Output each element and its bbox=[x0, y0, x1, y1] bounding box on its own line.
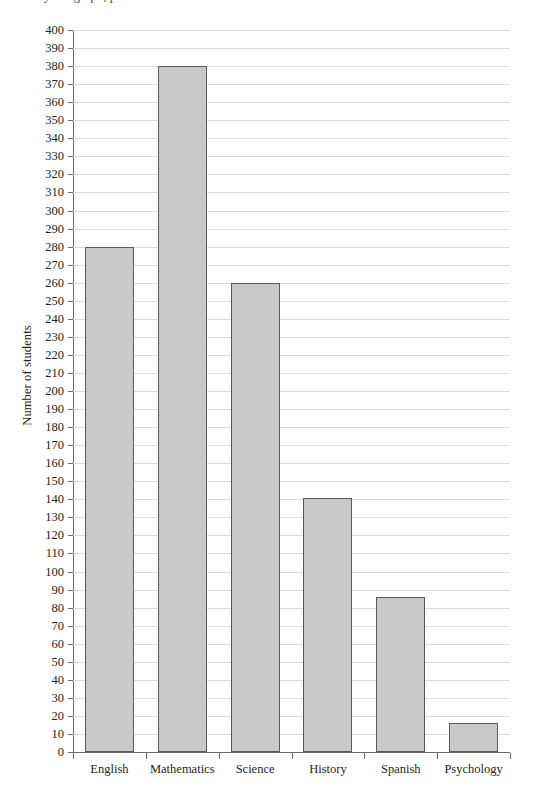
y-axis-tick-label: 390 bbox=[24, 42, 64, 54]
y-axis-tick-label: 380 bbox=[24, 60, 64, 72]
bar-chart-figure: Number of students 010203040506070809010… bbox=[0, 0, 537, 806]
y-axis-tick-label: 180 bbox=[24, 421, 64, 433]
y-axis-tick-label: 320 bbox=[24, 168, 64, 180]
y-axis-tick-label: 120 bbox=[24, 529, 64, 541]
y-axis-tick-label: 60 bbox=[24, 638, 64, 650]
y-axis-tick-label: 130 bbox=[24, 511, 64, 523]
y-axis-tick-label: 70 bbox=[24, 620, 64, 632]
y-axis-tick-label: 100 bbox=[24, 566, 64, 578]
y-axis-tick-label: 260 bbox=[24, 277, 64, 289]
bar-english bbox=[85, 247, 134, 752]
bar-science bbox=[231, 283, 280, 752]
y-axis-tick-label: 310 bbox=[24, 186, 64, 198]
x-axis-tick-mark bbox=[292, 753, 293, 759]
bars-group bbox=[73, 30, 510, 752]
y-axis-tick-label: 190 bbox=[24, 403, 64, 415]
y-axis-tick-label: 90 bbox=[24, 584, 64, 596]
y-axis-tick-label: 50 bbox=[24, 656, 64, 668]
y-axis-tick-label: 80 bbox=[24, 602, 64, 614]
y-axis-tick-label: 280 bbox=[24, 241, 64, 253]
y-axis-tick-label: 220 bbox=[24, 349, 64, 361]
x-axis-tick-mark-origin bbox=[73, 753, 74, 759]
y-axis-tick-label: 400 bbox=[24, 24, 64, 36]
y-axis-tick-label: 10 bbox=[24, 728, 64, 740]
x-axis-tick-mark bbox=[146, 753, 147, 759]
bar-history bbox=[303, 498, 352, 753]
y-axis-tick-label: 160 bbox=[24, 457, 64, 469]
y-axis-tick-label: 150 bbox=[24, 475, 64, 487]
y-axis-tick-label: 200 bbox=[24, 385, 64, 397]
y-axis-tick-label: 290 bbox=[24, 223, 64, 235]
x-axis-tick-mark bbox=[437, 753, 438, 759]
y-axis-tick-label: 330 bbox=[24, 150, 64, 162]
y-axis-tick-label: 170 bbox=[24, 439, 64, 451]
x-axis-tick-mark bbox=[219, 753, 220, 759]
y-axis-tick-label: 40 bbox=[24, 674, 64, 686]
y-axis-tick-label: 250 bbox=[24, 295, 64, 307]
y-axis-tick-label: 360 bbox=[24, 96, 64, 108]
y-axis-tick-label: 370 bbox=[24, 78, 64, 90]
y-axis-tick-label: 30 bbox=[24, 692, 64, 704]
x-axis-tick-mark bbox=[510, 753, 511, 759]
y-axis-tick-label: 0 bbox=[24, 746, 64, 758]
y-axis-tick-label: 300 bbox=[24, 205, 64, 217]
x-axis-tick-mark bbox=[364, 753, 365, 759]
y-axis-tick-label: 340 bbox=[24, 132, 64, 144]
y-axis-tick-label: 20 bbox=[24, 710, 64, 722]
plot-area bbox=[73, 30, 510, 752]
y-axis-tick-label: 140 bbox=[24, 493, 64, 505]
y-axis-tick-label: 210 bbox=[24, 367, 64, 379]
y-axis-tick-label: 110 bbox=[24, 547, 64, 559]
x-axis-label-psychology: Psychology bbox=[414, 761, 534, 777]
bar-psychology bbox=[449, 723, 498, 752]
y-axis-tick-label: 230 bbox=[24, 331, 64, 343]
bar-mathematics bbox=[158, 66, 207, 752]
bar-spanish bbox=[376, 597, 425, 752]
y-axis-tick-label: 350 bbox=[24, 114, 64, 126]
y-axis-tick-label: 270 bbox=[24, 259, 64, 271]
y-axis-tick-label: 240 bbox=[24, 313, 64, 325]
